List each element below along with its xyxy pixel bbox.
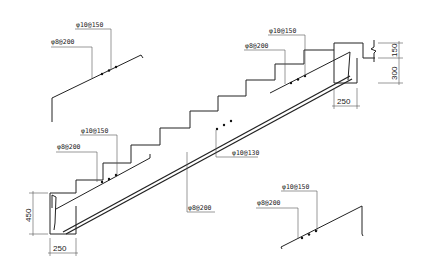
dim-top-beam-depth: 150 <box>390 43 399 57</box>
dimensions: 150 300 250 450 250 <box>24 41 403 256</box>
dim-bottom-beam-height: 450 <box>24 208 33 222</box>
label-bottom-right-upper: φ10@150 <box>282 183 309 191</box>
label-mid-left-upper: φ10@150 <box>81 127 108 135</box>
label-top-right-upper: φ10@150 <box>269 27 296 35</box>
label-top-right-lower: φ8@200 <box>245 42 269 50</box>
label-top-left-upper: φ10@150 <box>76 21 103 29</box>
bottom-right-bar-detail: φ10@150 φ8@200 <box>256 183 363 249</box>
top-left-bar-detail: φ10@150 φ8@200 <box>51 21 143 122</box>
main-stair: φ10@150 φ8@200 φ10@150 φ8@200 φ10@130 φ8… <box>50 27 376 234</box>
label-mid-left-lower: φ8@200 <box>57 143 81 151</box>
label-slab-dist: φ8@200 <box>188 204 212 212</box>
label-bottom-right-lower: φ8@200 <box>257 199 281 207</box>
stair-section-drawing: φ10@150 φ8@200 φ10@150 <box>0 0 425 277</box>
label-top-left-lower: φ8@200 <box>51 38 75 46</box>
dim-bottom-beam-width: 250 <box>53 244 67 253</box>
dim-top-beam-width: 250 <box>337 97 351 106</box>
dim-top-beam-height: 300 <box>390 66 399 80</box>
label-slab-main: φ10@130 <box>232 149 259 157</box>
